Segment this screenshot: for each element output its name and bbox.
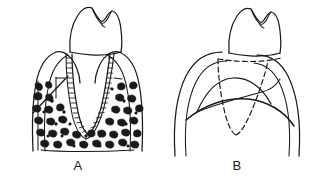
- panel-b-label: B: [232, 158, 241, 173]
- figure-plate: A B: [0, 0, 314, 181]
- panel-a-label: A: [73, 158, 82, 173]
- dental-illustration-svg: A B: [0, 0, 314, 181]
